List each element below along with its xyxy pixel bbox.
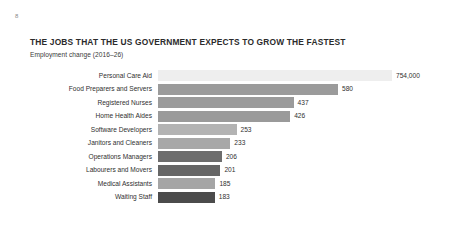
- bar-row: Personal Care Aid754,000: [30, 70, 440, 81]
- bar: [158, 151, 222, 162]
- bar-row: Waiting Staff183: [30, 192, 440, 203]
- bar-chart: THE JOBS THAT THE US GOVERNMENT EXPECTS …: [30, 37, 440, 205]
- bar-row: Operations Managers206: [30, 151, 440, 162]
- bar-track: 233: [158, 138, 440, 149]
- bar-category-label: Software Developers: [30, 126, 158, 134]
- bar: [158, 138, 230, 149]
- bar: [158, 97, 294, 108]
- bar-category-label: Home Health Aides: [30, 112, 158, 120]
- bar: [158, 111, 290, 122]
- bar-row: Labourers and Movers201: [30, 165, 440, 176]
- bar-value-label: 201: [224, 166, 235, 174]
- bar-category-label: Waiting Staff: [30, 193, 158, 201]
- bar-track: 426: [158, 111, 440, 122]
- bar-row: Software Developers253: [30, 124, 440, 135]
- bar-track: 754,000: [158, 70, 440, 81]
- bar-row: Food Preparers and Servers580: [30, 84, 440, 95]
- bar-track: 185: [158, 178, 440, 189]
- bar-value-label: 580: [342, 85, 353, 93]
- chart-plot-area: Personal Care Aid754,000Food Preparers a…: [30, 70, 440, 203]
- bar-value-label: 253: [241, 126, 252, 134]
- bar-value-label: 185: [219, 180, 230, 188]
- page-number: 8: [15, 12, 19, 20]
- bar-track: 201: [158, 165, 440, 176]
- bar-row: Home Health Aides426: [30, 111, 440, 122]
- bar-category-label: Food Preparers and Servers: [30, 85, 158, 93]
- bar-value-label: 233: [234, 139, 245, 147]
- bar-category-label: Labourers and Movers: [30, 166, 158, 174]
- bar: [158, 165, 220, 176]
- bar-category-label: Medical Assistants: [30, 180, 158, 188]
- bar-value-label: 206: [226, 153, 237, 161]
- chart-title: THE JOBS THAT THE US GOVERNMENT EXPECTS …: [30, 37, 440, 48]
- chart-subtitle: Employment change (2016–26): [30, 50, 440, 59]
- bar-row: Janitors and Cleaners233: [30, 138, 440, 149]
- bar-value-label: 437: [298, 99, 309, 107]
- bar: [158, 84, 338, 95]
- bar-track: 580: [158, 84, 440, 95]
- bar-value-label: 426: [294, 112, 305, 120]
- bar: [158, 124, 237, 135]
- bar-category-label: Personal Care Aid: [30, 72, 158, 80]
- bar-track: 437: [158, 97, 440, 108]
- bar-value-label: 754,000: [396, 72, 420, 80]
- bar-row: Registered Nurses437: [30, 97, 440, 108]
- bar-row: Medical Assistants185: [30, 178, 440, 189]
- bar: [158, 70, 392, 81]
- bar-category-label: Registered Nurses: [30, 99, 158, 107]
- bar: [158, 192, 215, 203]
- bar-track: 206: [158, 151, 440, 162]
- bar-track: 253: [158, 124, 440, 135]
- bar-value-label: 183: [219, 193, 230, 201]
- bar-category-label: Janitors and Cleaners: [30, 139, 158, 147]
- bar-track: 183: [158, 192, 440, 203]
- bar: [158, 178, 215, 189]
- bar-category-label: Operations Managers: [30, 153, 158, 161]
